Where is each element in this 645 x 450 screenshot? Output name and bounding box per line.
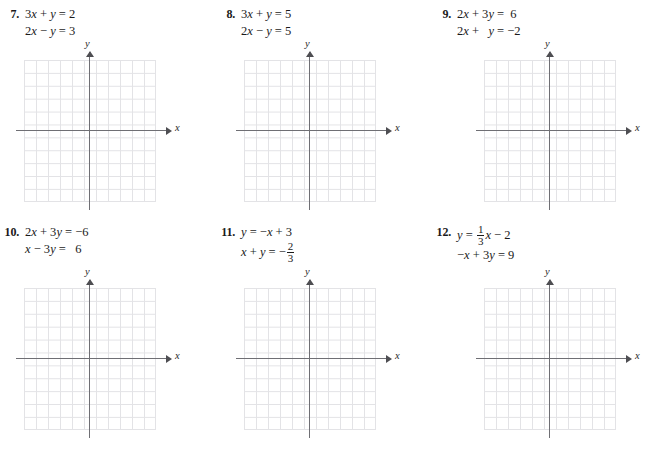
y-axis [549, 52, 550, 210]
problem-12-number: 12. [434, 224, 457, 240]
x-axis-label: x [635, 350, 640, 361]
problem-10: 10. 2x + 3y = −6 x − 3y = 6 [2, 224, 213, 258]
x-axis [476, 358, 628, 359]
problem-12-equation-2: −x + 3y = 9 [457, 247, 645, 264]
y-axis [309, 52, 310, 210]
y-axis-label: y [85, 266, 90, 277]
x-axis [16, 130, 168, 131]
problem-9-equation-1: 2x + 3y = 6 [457, 6, 645, 23]
y-axis-arrow-icon [546, 279, 554, 285]
graph-area-problem-9[interactable]: x y [484, 60, 636, 212]
problem-10-equation-1: 2x + 3y = −6 [25, 224, 213, 241]
graph-area-problem-12[interactable]: x y [484, 288, 636, 440]
x-axis [476, 130, 628, 131]
problem-9: 9. 2x + 3y = 6 2x + y = −2 [434, 6, 645, 40]
y-axis [89, 52, 90, 210]
y-axis-label: y [85, 38, 90, 49]
problem-8-equations: 8. 3x + y = 5 2x − y = 5 [218, 6, 429, 40]
graph-area-problem-7[interactable]: x y [24, 60, 176, 212]
y-axis-arrow-icon [306, 51, 314, 57]
problem-12: 12. y = 13x − 2 −x + 3y = 9 [434, 224, 645, 264]
x-axis-arrow-icon [166, 127, 172, 135]
y-axis-arrow-icon [546, 51, 554, 57]
problem-11-equation-2: x + y = −23 [241, 241, 429, 264]
problem-8-number: 8. [218, 6, 241, 22]
x-axis [16, 358, 168, 359]
problem-8: 8. 3x + y = 5 2x − y = 5 [218, 6, 429, 40]
problem-11-number: 11. [218, 224, 241, 240]
x-axis-arrow-icon [386, 355, 392, 363]
problem-9-number: 9. [434, 6, 457, 22]
x-axis [236, 358, 388, 359]
y-axis-arrow-icon [86, 51, 94, 57]
y-axis-arrow-icon [86, 279, 94, 285]
problem-7-equation-2: 2x − y = 3 [25, 23, 213, 40]
x-axis-label: x [175, 122, 180, 133]
graph-area-problem-11[interactable]: x y [244, 288, 396, 440]
problem-12-equations: 12. y = 13x − 2 −x + 3y = 9 [434, 224, 645, 264]
problem-8-equation-1: 3x + y = 5 [241, 6, 429, 23]
problem-7-number: 7. [2, 6, 25, 22]
x-axis-arrow-icon [626, 355, 632, 363]
x-axis-label: x [635, 122, 640, 133]
problem-7: 7. 3x + y = 2 2x − y = 3 [2, 6, 213, 40]
problem-9-equation-2: 2x + y = −2 [457, 23, 645, 40]
y-axis [549, 280, 550, 438]
problem-7-equations: 7. 3x + y = 2 2x − y = 3 [2, 6, 213, 40]
y-axis [89, 280, 90, 438]
problem-9-equations: 9. 2x + 3y = 6 2x + y = −2 [434, 6, 645, 40]
problem-11-equations: 11. y = −x + 3 x + y = −23 [218, 224, 429, 264]
x-axis-label: x [395, 350, 400, 361]
x-axis-label: x [175, 350, 180, 361]
y-axis-label: y [305, 266, 310, 277]
problem-11-equation-1: y = −x + 3 [241, 224, 429, 241]
problem-10-number: 10. [2, 224, 25, 240]
y-axis-label: y [545, 266, 550, 277]
graph-area-problem-10[interactable]: x y [24, 288, 176, 440]
problem-12-equation-1: y = 13x − 2 [457, 224, 645, 247]
problem-10-equations: 10. 2x + 3y = −6 x − 3y = 6 [2, 224, 213, 258]
problem-10-equation-2: x − 3y = 6 [25, 241, 213, 258]
problem-11: 11. y = −x + 3 x + y = −23 [218, 224, 429, 264]
x-axis-arrow-icon [386, 127, 392, 135]
y-axis-label: y [305, 38, 310, 49]
x-axis-arrow-icon [166, 355, 172, 363]
problem-8-equation-2: 2x − y = 5 [241, 23, 429, 40]
problem-7-equation-1: 3x + y = 2 [25, 6, 213, 23]
x-axis-label: x [395, 122, 400, 133]
graph-area-problem-8[interactable]: x y [244, 60, 396, 212]
y-axis [309, 280, 310, 438]
y-axis-arrow-icon [306, 279, 314, 285]
x-axis-arrow-icon [626, 127, 632, 135]
y-axis-label: y [545, 38, 550, 49]
x-axis [236, 130, 388, 131]
